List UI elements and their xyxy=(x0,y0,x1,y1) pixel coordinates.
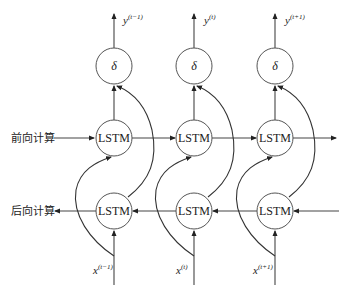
output-node-label: δ xyxy=(191,59,197,73)
input-label: x(t) xyxy=(175,263,188,276)
forward-computation-label: 前向计算 xyxy=(11,131,55,145)
backward-lstm-label: LSTM xyxy=(178,204,210,218)
output-label: y(t) xyxy=(203,13,216,26)
forward-lstm-label: LSTM xyxy=(178,131,210,145)
forward-lstm-label: LSTM xyxy=(259,131,291,145)
backward-computation-label: 后向计算 xyxy=(11,204,55,218)
backward-lstm-label: LSTM xyxy=(259,204,291,218)
column-t-minus-1: δ LSTM LSTM y(t−1) x(t−1) xyxy=(75,13,153,285)
output-node-label: δ xyxy=(272,59,278,73)
input-label: x(t+1) xyxy=(252,263,273,276)
output-node-label: δ xyxy=(111,59,117,73)
backward-lstm-label: LSTM xyxy=(98,204,130,218)
column-t: δ LSTM LSTM y(t) x(t) xyxy=(155,13,233,285)
column-t-plus-1: δ LSTM LSTM y(t+1) x(t+1) xyxy=(236,13,314,285)
bilstm-diagram: 前向计算 后向计算 δ LSTM LSTM y(t−1) x(t−1) δ LS… xyxy=(0,0,348,294)
forward-lstm-label: LSTM xyxy=(98,131,130,145)
input-label: x(t−1) xyxy=(92,263,113,276)
output-label: y(t+1) xyxy=(284,13,305,26)
output-label: y(t−1) xyxy=(122,13,143,26)
